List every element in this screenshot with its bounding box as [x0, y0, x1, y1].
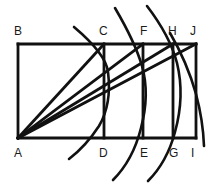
vertex-label-G: G	[169, 147, 178, 159]
geometric-figure: B C F H J A D E G I	[0, 0, 212, 183]
diagonal-AJ	[18, 44, 196, 138]
diagonal-AF	[18, 44, 143, 138]
vertex-label-H: H	[168, 25, 177, 37]
vertex-label-B: B	[14, 25, 22, 37]
diagonal-AH	[18, 44, 173, 138]
vertex-label-J: J	[190, 25, 196, 37]
diagonal-AC	[18, 44, 104, 138]
segment-group	[18, 44, 196, 138]
vertex-label-A: A	[14, 147, 22, 159]
vertex-label-D: D	[99, 147, 108, 159]
vertex-label-C: C	[99, 25, 108, 37]
vertex-label-F: F	[140, 25, 147, 37]
vertex-label-I: I	[191, 147, 194, 159]
vertex-label-E: E	[140, 147, 148, 159]
